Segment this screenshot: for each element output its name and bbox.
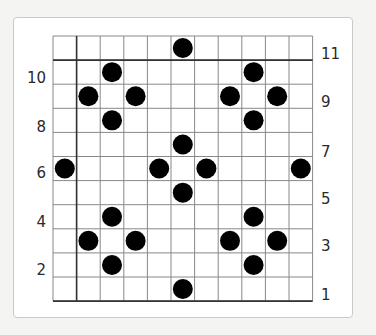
dot <box>126 231 146 251</box>
dot <box>102 207 122 227</box>
left-label: 6 <box>18 166 46 181</box>
left-label: 10 <box>18 71 46 86</box>
right-label: 7 <box>321 145 331 160</box>
right-label: 5 <box>321 192 331 207</box>
dot <box>173 134 193 154</box>
left-label: 4 <box>18 215 46 230</box>
right-label: 9 <box>321 95 331 110</box>
dot <box>244 62 264 82</box>
right-label: 11 <box>321 47 340 62</box>
dot <box>244 110 264 130</box>
dot <box>244 207 264 227</box>
left-label: 8 <box>18 120 46 135</box>
dot <box>196 159 216 179</box>
dot <box>220 86 240 106</box>
dot <box>173 38 193 58</box>
dot <box>78 86 98 106</box>
dot <box>173 183 193 203</box>
dot <box>267 231 287 251</box>
dot <box>173 279 193 299</box>
right-label: 1 <box>321 288 331 303</box>
dot <box>149 159 169 179</box>
diagram-canvas: 10 8 6 4 2 11 9 7 5 3 1 <box>0 0 376 335</box>
dot <box>78 231 98 251</box>
dot <box>102 255 122 275</box>
dot <box>220 231 240 251</box>
left-label: 2 <box>18 263 46 278</box>
dot <box>102 110 122 130</box>
right-label: 3 <box>321 239 331 254</box>
dot-grid <box>0 0 376 335</box>
dot <box>102 62 122 82</box>
dot <box>55 159 75 179</box>
dot <box>267 86 287 106</box>
dot <box>244 255 264 275</box>
dot <box>126 86 146 106</box>
dot <box>291 159 311 179</box>
